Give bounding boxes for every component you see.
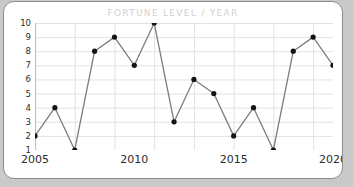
x-axis-tick-label: 2015 xyxy=(220,154,248,165)
y-axis-tick-label: 10 xyxy=(20,19,31,28)
data-point xyxy=(231,133,236,138)
data-point xyxy=(92,49,97,54)
data-point xyxy=(112,35,117,40)
data-point xyxy=(211,91,216,96)
data-point xyxy=(171,119,176,124)
y-axis-tick-label: 4 xyxy=(26,103,31,112)
y-axis-tick-label: 9 xyxy=(26,33,31,42)
line-chart-svg xyxy=(35,23,333,150)
data-point-markers xyxy=(35,23,333,150)
chart-title: FORTUNE LEVEL / YEAR xyxy=(4,8,342,18)
data-point xyxy=(35,133,38,138)
data-point xyxy=(311,35,316,40)
data-point xyxy=(132,63,137,68)
grid-lines xyxy=(35,23,333,150)
data-point xyxy=(191,77,196,82)
data-point xyxy=(291,49,296,54)
y-axis-tick-label: 3 xyxy=(26,118,31,127)
data-point xyxy=(152,23,157,26)
data-point xyxy=(52,105,57,110)
data-point xyxy=(251,105,256,110)
x-axis-tick-label: 2005 xyxy=(21,154,49,165)
chart-card: FORTUNE LEVEL / YEAR 12345678910 2005201… xyxy=(3,1,343,179)
y-axis-tick-label: 8 xyxy=(26,47,31,56)
x-axis-tick-label: 2020 xyxy=(319,154,343,165)
y-axis-tick-label: 2 xyxy=(26,132,31,141)
data-point xyxy=(330,63,333,68)
data-point xyxy=(72,147,77,150)
data-line xyxy=(35,23,333,150)
y-axis-tick-label: 6 xyxy=(26,75,31,84)
y-axis-tick-label: 5 xyxy=(26,89,31,98)
y-axis-tick-label: 7 xyxy=(26,61,31,70)
plot-area: 12345678910 2005201020152020 xyxy=(35,23,333,150)
data-point xyxy=(271,147,276,150)
x-axis-tick-label: 2010 xyxy=(120,154,148,165)
